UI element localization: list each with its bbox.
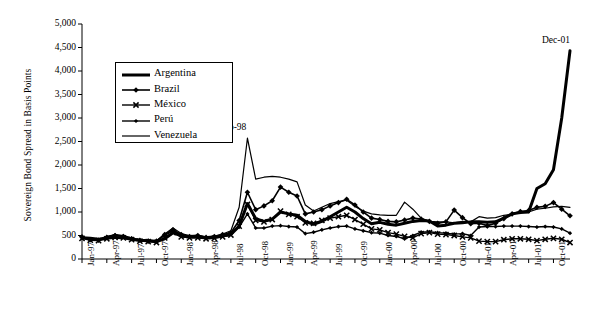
x-tick-label: Jul-00 bbox=[433, 244, 443, 267]
legend-swatch-argentina-icon bbox=[121, 67, 151, 79]
x-tick-label: Jan-97 bbox=[86, 242, 96, 266]
series-venezuela bbox=[82, 138, 570, 240]
legend-swatch-brazil-icon bbox=[121, 82, 151, 94]
x-tick-label: Oct-99 bbox=[359, 241, 369, 266]
x-tick-label: Jan-98 bbox=[185, 242, 195, 266]
legend-label: Argentina bbox=[151, 67, 196, 78]
x-tick-label: Apr-99 bbox=[309, 240, 319, 266]
plot-area bbox=[0, 0, 590, 324]
legend-swatch-venezuela-icon bbox=[121, 128, 151, 140]
legend-item-perú: Perú bbox=[116, 111, 232, 126]
x-tick-label: Oct-97 bbox=[160, 241, 170, 266]
x-tick-label: Jul-99 bbox=[334, 244, 344, 267]
legend-label: Brazil bbox=[151, 83, 180, 94]
legend-item-méxico: México bbox=[116, 96, 232, 111]
legend-swatch-perú-icon bbox=[121, 113, 151, 125]
x-tick-label: Jul-98 bbox=[235, 244, 245, 267]
x-tick-label: Apr-01 bbox=[508, 240, 518, 266]
legend-swatch-méxico-icon bbox=[121, 97, 151, 109]
annotation-label: Dec-01 bbox=[542, 35, 570, 45]
legend-item-argentina: Argentina bbox=[116, 65, 232, 80]
x-tick-label: Apr-00 bbox=[409, 240, 419, 266]
sovereign-bond-spread-chart: Sovereign Bond Spread in Basis Points 05… bbox=[0, 0, 590, 324]
x-tick-label: Jan-01 bbox=[483, 242, 493, 266]
legend-label: Venezuela bbox=[151, 129, 197, 140]
x-tick-label: Jan-00 bbox=[384, 242, 394, 266]
series-brazil bbox=[79, 184, 573, 244]
x-tick-label: Oct-01 bbox=[557, 241, 567, 266]
x-tick-label: Jul-01 bbox=[533, 244, 543, 267]
legend-label: Perú bbox=[151, 113, 173, 124]
x-tick-label: Apr-98 bbox=[210, 240, 220, 266]
legend-label: México bbox=[151, 98, 186, 109]
x-tick-label: Oct-00 bbox=[458, 241, 468, 266]
legend-item-venezuela: Venezuela bbox=[116, 127, 232, 142]
x-tick-label: Apr-97 bbox=[111, 240, 121, 266]
x-tick-label: Oct-98 bbox=[260, 241, 270, 266]
x-tick-label: Jul-97 bbox=[136, 244, 146, 267]
legend-item-brazil: Brazil bbox=[116, 80, 232, 95]
legend: ArgentinaBrazilMéxicoPerúVenezuela bbox=[115, 62, 233, 143]
x-tick-label: Jan-99 bbox=[285, 242, 295, 266]
